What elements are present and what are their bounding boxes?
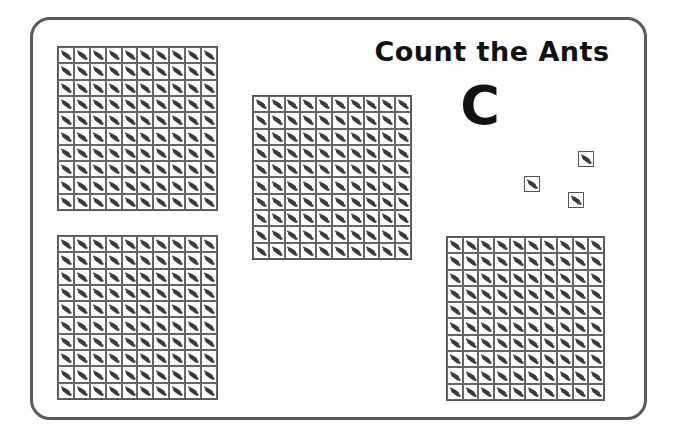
ant-icon — [303, 247, 313, 255]
grid-cell — [332, 96, 348, 112]
grid-cell — [300, 145, 316, 161]
ant-icon — [204, 240, 214, 248]
grid-cell — [300, 226, 316, 242]
ant-icon — [93, 354, 103, 362]
grid-cell — [153, 80, 169, 96]
ant-icon — [513, 388, 523, 396]
grid-cell — [201, 317, 217, 333]
grid-cell — [90, 80, 106, 96]
ant-icon — [93, 322, 103, 330]
ant-icon — [319, 247, 329, 255]
ant-icon — [61, 100, 71, 108]
grid-cell — [557, 318, 573, 334]
ant-icon — [497, 306, 507, 314]
grid-cell — [90, 236, 106, 252]
ant-icon — [188, 371, 198, 379]
ant-icon — [204, 84, 214, 92]
ant-icon — [560, 274, 570, 282]
grid-cell — [74, 96, 90, 112]
grid-cell — [74, 236, 90, 252]
ant-icon — [141, 67, 151, 75]
grid-cell — [58, 236, 74, 252]
grid-cell — [74, 285, 90, 301]
worksheet-letter: C — [450, 76, 510, 136]
ant-icon — [351, 133, 361, 141]
ant-icon — [335, 247, 345, 255]
ant-icon — [256, 247, 266, 255]
grid-cell — [169, 252, 185, 268]
ant-icon — [141, 149, 151, 157]
grid-cell — [379, 112, 395, 128]
grid-cell — [122, 112, 138, 128]
ant-icon — [398, 198, 408, 206]
grid-cell — [58, 383, 74, 399]
grid-cell — [463, 302, 479, 318]
grid-cell — [253, 177, 269, 193]
grid-cell — [253, 243, 269, 259]
ant-icon — [288, 214, 298, 222]
grid-cell — [332, 210, 348, 226]
ant-icon — [528, 388, 538, 396]
grid-cell — [510, 302, 526, 318]
grid-cell — [185, 366, 201, 382]
grid-cell — [58, 47, 74, 63]
ant-icon — [497, 355, 507, 363]
grid-cell — [300, 177, 316, 193]
ant-icon — [125, 133, 135, 141]
ant-icon — [576, 306, 586, 314]
grid-cell — [106, 128, 122, 144]
ant-icon — [188, 116, 198, 124]
grid-cell — [379, 210, 395, 226]
ant-icon — [256, 198, 266, 206]
ant-icon — [172, 289, 182, 297]
grid-cell — [185, 269, 201, 285]
grid-cell — [90, 161, 106, 177]
ant-icon — [528, 323, 538, 331]
grid-cell — [74, 47, 90, 63]
ant-icon — [156, 387, 166, 395]
grid-cell — [395, 243, 411, 259]
ant-icon — [172, 273, 182, 281]
grid-cell — [588, 270, 604, 286]
ant-icon — [204, 354, 214, 362]
grid-cell — [447, 367, 463, 383]
ant-icon — [141, 100, 151, 108]
grid-cell — [122, 252, 138, 268]
ant-icon — [156, 240, 166, 248]
grid-cell — [122, 63, 138, 79]
grid-cell — [269, 112, 285, 128]
ant-icon — [335, 182, 345, 190]
grid-cell — [285, 145, 301, 161]
ant-icon — [204, 289, 214, 297]
ant-icon — [272, 149, 282, 157]
grid-cell — [106, 350, 122, 366]
ant-icon — [576, 323, 586, 331]
grid-cell — [316, 210, 332, 226]
grid-cell — [525, 384, 541, 400]
ant-icon — [172, 84, 182, 92]
grid-cell — [153, 383, 169, 399]
ant-icon — [172, 182, 182, 190]
ant-icon — [188, 67, 198, 75]
grid-cell — [90, 301, 106, 317]
grid-cell — [122, 236, 138, 252]
worksheet-title: Count the Ants — [352, 36, 632, 67]
ant-icon — [288, 182, 298, 190]
ant-icon — [172, 149, 182, 157]
grid-cell — [201, 112, 217, 128]
ant-icon — [481, 241, 491, 249]
grid-cell — [74, 194, 90, 210]
grid-cell — [58, 317, 74, 333]
ant-icon — [156, 273, 166, 281]
ant-icon — [351, 116, 361, 124]
ant-icon — [204, 100, 214, 108]
grid-cell — [300, 210, 316, 226]
grid-cell — [106, 236, 122, 252]
grid-cell — [364, 226, 380, 242]
ant-icon — [351, 182, 361, 190]
grid-cell — [364, 96, 380, 112]
grid-cell — [478, 270, 494, 286]
grid-cell — [557, 384, 573, 400]
grid-cell — [74, 366, 90, 382]
ant-icon — [319, 165, 329, 173]
